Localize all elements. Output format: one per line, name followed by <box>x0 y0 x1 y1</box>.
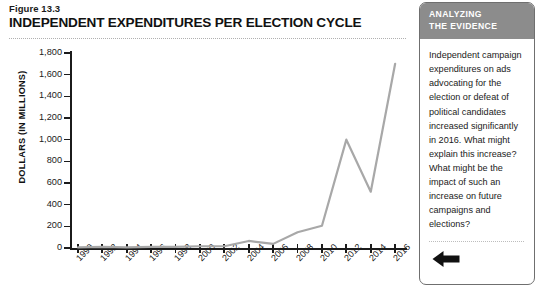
figure-number-label: Figure 13.3 <box>9 3 60 14</box>
title-divider <box>9 38 407 39</box>
sidebar-body-text: Independent campaign expenditures on ads… <box>420 39 534 235</box>
plot-area: DOLLARS (IN MILLIONS) 02004006008001,000… <box>0 44 415 289</box>
sidebar-header-line-1: ANALYZING <box>429 9 525 21</box>
chart-figure: Figure 13.3 INDEPENDENT EXPENDITURES PER… <box>0 0 415 289</box>
data-series-line <box>0 44 415 289</box>
analyzing-the-evidence-panel: ANALYZING THE EVIDENCE Independent campa… <box>419 2 535 285</box>
figure-title: INDEPENDENT EXPENDITURES PER ELECTION CY… <box>9 15 361 30</box>
left-arrow-icon[interactable] <box>420 242 534 272</box>
figure-page: Figure 13.3 INDEPENDENT EXPENDITURES PER… <box>0 0 539 289</box>
sidebar-header: ANALYZING THE EVIDENCE <box>420 3 534 39</box>
sidebar-header-line-2: THE EVIDENCE <box>429 21 525 33</box>
